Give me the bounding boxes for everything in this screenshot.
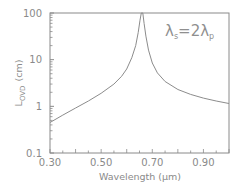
x-axis-label: Wavelength (μm) [99,171,181,182]
x-axis-ticks: 0.300.500.700.90 [39,149,229,168]
y-tick-label: 10 [29,54,42,65]
y-tick-label: 1 [36,101,42,112]
y-axis-ticks: 0.1110100 [23,8,54,159]
y-tick-label: 100 [23,8,42,19]
x-tick-label: 0.70 [141,157,163,168]
y-label-unit: (cm) [13,60,24,82]
x-tick-label: 0.30 [39,157,61,168]
chart: 0.1110100 0.300.500.700.90 Wavelength (μ… [0,0,244,186]
x-tick-label: 0.90 [192,157,214,168]
y-label-sub: OVD [19,86,27,102]
annotation-lambda-relation: λs=2λp [165,22,214,41]
x-tick-label: 0.50 [90,157,112,168]
y-axis-label: LOVD(cm) [13,60,27,107]
svg-text:LOVD(cm): LOVD(cm) [13,60,27,107]
